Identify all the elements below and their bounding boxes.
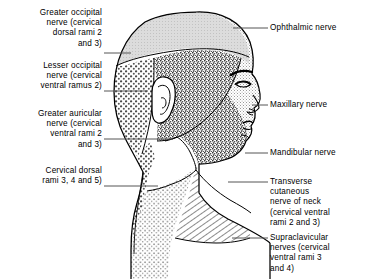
anatomical-figure: Greater occipital nerve (cervical dorsal… [0, 0, 373, 279]
label-ophthalmic-nerve: Ophthalmic nerve [270, 23, 372, 33]
label-cervical-dorsal-rami: Cervical dorsal rami 3, 4 and 5) [2, 166, 102, 186]
label-maxillary-nerve: Maxillary nerve [270, 100, 372, 110]
label-greater-auricular-nerve: Greater auricular nerve (cervical ventra… [2, 109, 102, 150]
label-mandibular-nerve: Mandibular nerve [270, 148, 372, 158]
label-transverse-cutaneous-nerve-of-neck: Transverse cutaneous nerve of neck (cerv… [270, 177, 372, 228]
label-lesser-occipital-nerve: Lesser occipital nerve (cervical ventral… [2, 61, 102, 92]
label-greater-occipital-nerve: Greater occipital nerve (cervical dorsal… [2, 8, 102, 49]
label-supraclavicular-nerves: Supraclavicular nerves (cervical ventral… [270, 233, 372, 274]
